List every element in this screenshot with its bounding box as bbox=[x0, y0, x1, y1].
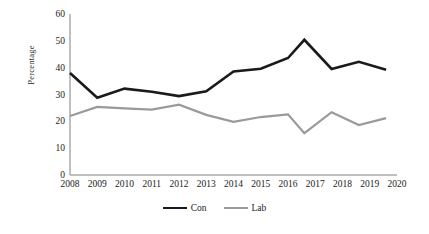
legend-label: Con bbox=[191, 203, 207, 213]
legend-item-con[interactable]: Con bbox=[163, 203, 207, 213]
series-line-lab bbox=[70, 105, 386, 133]
legend-label: Lab bbox=[252, 203, 267, 213]
series-line-con bbox=[70, 40, 386, 98]
plot-area bbox=[0, 0, 429, 234]
legend: ConLab bbox=[0, 203, 429, 213]
axis-lines bbox=[70, 14, 397, 175]
legend-item-lab[interactable]: Lab bbox=[224, 203, 267, 213]
line-chart: Percentage 0102030405060 200820092010201… bbox=[0, 0, 429, 234]
legend-swatch-icon bbox=[163, 207, 187, 209]
data-series bbox=[70, 40, 386, 133]
legend-swatch-icon bbox=[224, 207, 248, 209]
